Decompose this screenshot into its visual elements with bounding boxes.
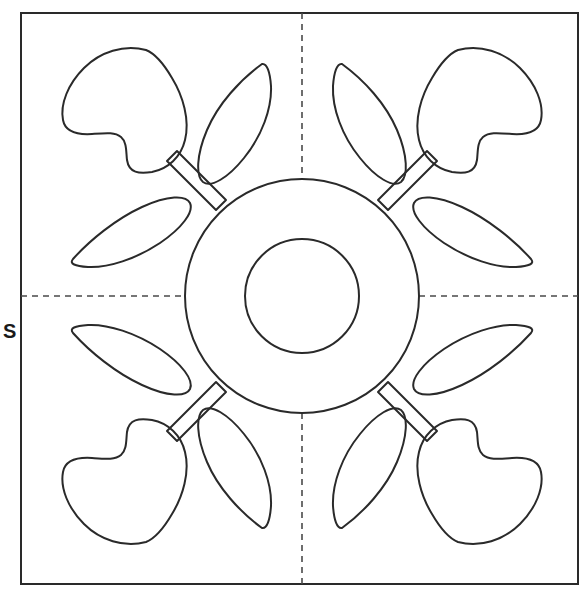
- left-axis-label: S: [3, 320, 16, 342]
- pattern-drawing-canvas: S: [0, 0, 584, 593]
- figure-root: S: [0, 0, 584, 593]
- center-inner-circle: [245, 239, 359, 353]
- center-rosette: [185, 179, 419, 413]
